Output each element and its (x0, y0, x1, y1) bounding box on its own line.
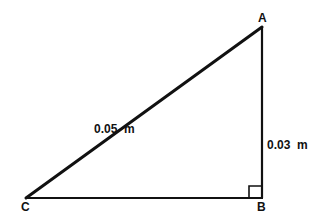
side-ca-hypotenuse (26, 27, 262, 198)
leg-length-label: 0.03 m (267, 139, 308, 151)
triangle-figure (0, 0, 332, 223)
right-angle-marker (249, 186, 262, 198)
vertex-label-a: A (258, 12, 267, 24)
vertex-label-b: B (257, 201, 266, 213)
hypotenuse-length-label: 0.05 m (94, 123, 135, 135)
figure-caption-cropped (0, 215, 332, 223)
vertex-label-c: C (21, 201, 30, 213)
